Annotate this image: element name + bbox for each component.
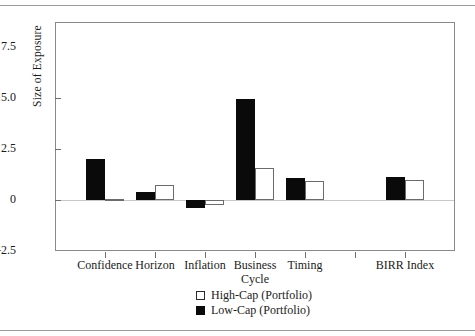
y-axis-tick-label: 2.5 (0, 142, 16, 154)
legend-item: High-Cap (Portfolio) (196, 288, 312, 303)
bar-low-cap (236, 99, 255, 200)
x-axis-label-line: Cycle (195, 273, 315, 287)
bar-low-cap (136, 192, 155, 200)
y-axis-tick-label: 7.5 (0, 40, 16, 52)
legend-swatch-low-cap (196, 306, 205, 315)
bar-low-cap (386, 177, 405, 200)
x-axis-tick-mark (355, 252, 356, 258)
legend-swatch-high-cap (196, 291, 205, 300)
bar-low-cap (186, 200, 205, 208)
legend-item: Low-Cap (Portfolio) (196, 303, 312, 318)
bar-chart-figure: Size of Exposure 7.55.02.50-2.5 Confiden… (0, 0, 475, 336)
y-axis-tick-label: 0 (0, 193, 16, 205)
x-axis-label-line: BIRR Index (345, 259, 465, 273)
bar-high-cap (105, 199, 124, 201)
legend-label: Low-Cap (Portfolio) (211, 303, 310, 318)
y-axis-title: Size of Exposure (31, 0, 43, 151)
x-axis-tick-label: BIRR Index (345, 259, 465, 273)
bar-low-cap (286, 178, 305, 200)
bar-high-cap (155, 185, 174, 200)
bar-high-cap (405, 180, 424, 200)
legend-label: High-Cap (Portfolio) (211, 288, 312, 303)
bar-high-cap (255, 168, 274, 200)
bottom-divider-rule (0, 330, 475, 331)
plot-area-frame (55, 22, 455, 251)
bar-high-cap (305, 181, 324, 200)
y-axis-tick-label: 5.0 (0, 91, 16, 103)
y-axis-tick-mark (55, 98, 61, 99)
chart-legend: High-Cap (Portfolio)Low-Cap (Portfolio) (196, 288, 312, 318)
bar-low-cap (86, 159, 105, 200)
bar-high-cap (205, 200, 224, 205)
y-axis-tick-label: -2.5 (0, 244, 16, 256)
y-axis-tick-mark (55, 200, 61, 201)
y-axis-tick-mark (55, 149, 61, 150)
